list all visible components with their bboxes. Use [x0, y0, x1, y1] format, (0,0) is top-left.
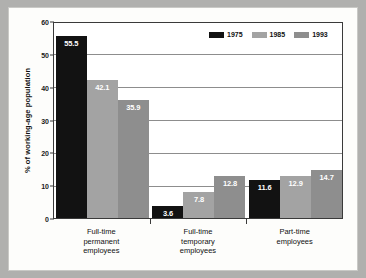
y-tick-mark-0: [50, 219, 54, 220]
x-tick-mark: [150, 219, 151, 224]
plot-area: 0102030405060 55.542.135.93.67.812.811.6…: [53, 22, 343, 219]
bar-value-label: 7.8: [183, 195, 214, 204]
chart-card: % of working-age population 010203040506…: [9, 8, 357, 270]
bar-value-label: 11.6: [249, 183, 280, 192]
category-label: Full-time temporary employees: [150, 227, 247, 256]
y-tick-label-0: 0: [45, 216, 49, 223]
bar-group: 11.612.914.7: [247, 22, 344, 218]
legend-item-1985[interactable]: 1985: [252, 31, 286, 38]
y-axis-title-text: % of working-age population: [24, 68, 33, 173]
bar-1985[interactable]: 42.1: [87, 80, 118, 218]
legend-label-1985: 1985: [270, 31, 286, 38]
bar-group: 55.542.135.9: [54, 22, 151, 218]
page-background: % of working-age population 010203040506…: [0, 0, 366, 278]
legend-item-1993[interactable]: 1993: [294, 31, 328, 38]
bar-value-label: 55.5: [56, 39, 87, 48]
bar-group: 3.67.812.8: [151, 22, 248, 218]
legend: 197519851993: [209, 31, 328, 38]
bar-1993[interactable]: 12.8: [214, 176, 245, 218]
bar-value-label: 35.9: [118, 103, 149, 112]
legend-label-1975: 1975: [227, 31, 243, 38]
y-axis-title: % of working-age population: [21, 22, 35, 219]
y-tick-label-50: 50: [41, 51, 49, 58]
bar-value-label: 3.6: [152, 209, 183, 218]
bar-1985[interactable]: 7.8: [183, 192, 214, 218]
legend-label-1993: 1993: [312, 31, 328, 38]
bar-value-label: 12.9: [280, 179, 311, 188]
legend-swatch-1985: [252, 32, 267, 38]
bar-1985[interactable]: 12.9: [280, 176, 311, 218]
bar-value-label: 42.1: [87, 83, 118, 92]
x-tick-mark: [246, 219, 247, 224]
bar-1993[interactable]: 35.9: [118, 100, 149, 218]
bar-1975[interactable]: 11.6: [249, 180, 280, 218]
bar-value-label: 12.8: [214, 179, 245, 188]
legend-swatch-1975: [209, 32, 224, 38]
bar-1993[interactable]: 14.7: [311, 170, 342, 218]
bar-1975[interactable]: 3.6: [152, 206, 183, 218]
category-label: Part-time employees: [246, 227, 343, 246]
y-tick-label-30: 30: [41, 117, 49, 124]
legend-swatch-1993: [294, 32, 309, 38]
y-tick-label-20: 20: [41, 150, 49, 157]
bar-value-label: 14.7: [311, 173, 342, 182]
bar-1975[interactable]: 55.5: [56, 36, 87, 218]
y-tick-label-10: 10: [41, 183, 49, 190]
category-label: Full-time permanent employees: [53, 227, 150, 256]
legend-item-1975[interactable]: 1975: [209, 31, 243, 38]
y-tick-label-60: 60: [41, 19, 49, 26]
bar-groups: 55.542.135.93.67.812.811.612.914.7: [54, 22, 342, 218]
y-tick-label-40: 40: [41, 84, 49, 91]
